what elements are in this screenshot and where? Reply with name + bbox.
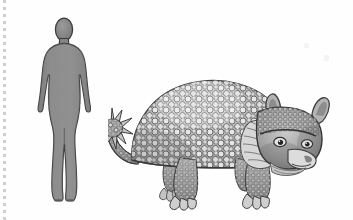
human-body-shape <box>38 18 90 202</box>
faint-mark-1 <box>304 43 309 48</box>
faint-mark-2 <box>324 55 329 61</box>
glyptodon-illustration <box>108 52 348 212</box>
human-silhouette <box>33 16 95 202</box>
glyptodon-eye-right <box>301 140 312 148</box>
dotted-margin-line <box>3 0 6 220</box>
glyptodon-eye-left <box>274 137 286 146</box>
size-comparison-scene <box>0 0 353 220</box>
